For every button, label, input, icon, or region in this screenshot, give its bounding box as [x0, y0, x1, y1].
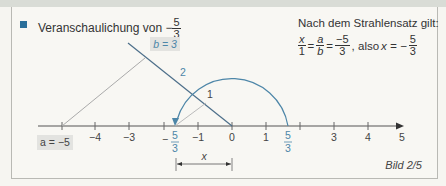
- b-label: b = 3: [153, 38, 177, 50]
- number-line-diagram: b = 3 2 1 a = −5 −4 −3 −1 0 1 3 4 5 − 5 …: [0, 0, 446, 186]
- figure-caption: Bild 2/5: [385, 159, 422, 171]
- segment-1-label: 1: [207, 88, 213, 100]
- arc-arrow-icon: [172, 118, 179, 126]
- neg-frac-sign: −: [162, 133, 168, 145]
- tick-label: 3: [331, 131, 337, 143]
- rotation-arc: [177, 79, 288, 126]
- neg-frac-num: 5: [172, 129, 178, 141]
- tick-label: 1: [263, 131, 269, 143]
- segment-2-label: 2: [180, 66, 186, 78]
- a-label: a = −5: [40, 136, 70, 148]
- tick-label: −4: [89, 131, 101, 143]
- ray-from-a: [62, 58, 145, 126]
- b-line: [128, 43, 232, 126]
- x-label: x: [200, 150, 207, 162]
- pos-frac-den: 3: [285, 142, 291, 154]
- tick-label: 4: [365, 131, 371, 143]
- parallel-line: [175, 103, 206, 126]
- axis-arrow-icon: [396, 123, 404, 130]
- tick-label: −3: [123, 131, 135, 143]
- tick-label: 5: [399, 131, 405, 143]
- tick-label: 0: [229, 131, 235, 143]
- tick-label: −1: [192, 131, 204, 143]
- neg-frac-den: 3: [172, 142, 178, 154]
- pos-frac-num: 5: [285, 129, 291, 141]
